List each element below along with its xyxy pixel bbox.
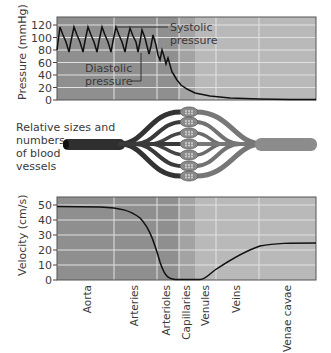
svg-text:20: 20 bbox=[38, 82, 52, 95]
diastolic-label-2: pressure bbox=[85, 75, 133, 88]
systolic-label-2: pressure bbox=[170, 34, 218, 47]
svg-text:40: 40 bbox=[38, 69, 52, 82]
svg-text:30: 30 bbox=[38, 229, 52, 242]
x-label-arteries: Arteries bbox=[128, 285, 140, 326]
svg-text:0: 0 bbox=[45, 94, 52, 107]
velocity-y-axis-label: Velocity (cm/s) bbox=[16, 195, 29, 276]
svg-text:40: 40 bbox=[38, 214, 52, 227]
svg-text:numbers: numbers bbox=[16, 134, 65, 147]
systolic-label-1: Systolic bbox=[170, 21, 212, 34]
diastolic-label-1: Diastolic bbox=[85, 62, 132, 75]
x-label-venae-cavae: Venae cavae bbox=[281, 285, 293, 352]
svg-text:50: 50 bbox=[38, 199, 52, 212]
vessel-diagram: Relative sizes and numbers of blood vess… bbox=[16, 107, 317, 181]
x-label-venules: Venules bbox=[199, 285, 211, 326]
svg-text:100: 100 bbox=[31, 32, 52, 45]
x-label-arterioles: Arterioles bbox=[160, 285, 172, 336]
x-label-veins: Veins bbox=[230, 285, 242, 313]
svg-text:80: 80 bbox=[38, 44, 52, 57]
svg-text:vessels: vessels bbox=[16, 160, 57, 173]
aorta-tube bbox=[63, 139, 125, 150]
capillary-beds bbox=[180, 107, 198, 181]
circulation-figure: 120 100 80 60 40 20 0 Pressure (mmHg) Sy… bbox=[0, 0, 331, 353]
x-label-capillaries: Capillaries bbox=[180, 285, 192, 340]
vena-cava-tube bbox=[255, 138, 317, 151]
pressure-chart: 120 100 80 60 40 20 0 Pressure (mmHg) Sy… bbox=[16, 4, 316, 107]
svg-text:of blood: of blood bbox=[16, 147, 61, 160]
velocity-y-ticks: 50 40 30 20 10 0 bbox=[38, 199, 52, 287]
svg-text:Relative sizes and: Relative sizes and bbox=[16, 121, 115, 134]
svg-text:10: 10 bbox=[38, 259, 52, 272]
x-category-labels: Aorta Arteries Arterioles Capillaries Ve… bbox=[81, 285, 293, 352]
x-label-aorta: Aorta bbox=[81, 285, 93, 313]
velocity-chart: 50 40 30 20 10 0 Velocity (cm/s) Aorta A… bbox=[16, 195, 316, 352]
pressure-y-axis-label: Pressure (mmHg) bbox=[16, 4, 29, 100]
pressure-y-ticks: 120 100 80 60 40 20 0 bbox=[31, 19, 52, 107]
svg-text:0: 0 bbox=[45, 274, 52, 287]
svg-text:20: 20 bbox=[38, 244, 52, 257]
svg-text:60: 60 bbox=[38, 57, 52, 70]
svg-text:120: 120 bbox=[31, 19, 52, 32]
